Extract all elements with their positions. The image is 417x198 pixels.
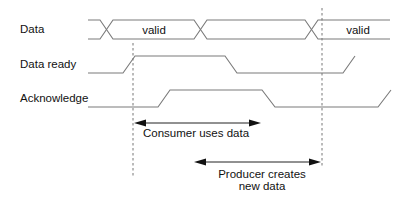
signal-label-acknowledge: Acknowledge — [20, 92, 88, 104]
producer-label-line1: Producer creates — [218, 168, 306, 180]
arrowhead-left-icon — [134, 120, 146, 127]
timing-diagram: Data Data ready Acknowledge valid valid … — [0, 0, 417, 198]
producer-arrow — [194, 159, 321, 166]
data-bus-waveform — [88, 20, 390, 39]
consumer-arrow — [134, 120, 261, 127]
signal-label-data: Data — [20, 23, 45, 35]
arrowhead-right-icon — [249, 120, 261, 127]
data-valid-label-2: valid — [346, 24, 370, 36]
signal-label-data-ready: Data ready — [20, 58, 77, 70]
consumer-label: Consumer uses data — [143, 127, 250, 139]
producer-label-line2: new data — [239, 180, 286, 192]
data-ready-waveform — [88, 56, 355, 73]
data-valid-label-1: valid — [142, 24, 166, 36]
arrowhead-right-icon — [309, 159, 321, 166]
arrowhead-left-icon — [194, 159, 206, 166]
